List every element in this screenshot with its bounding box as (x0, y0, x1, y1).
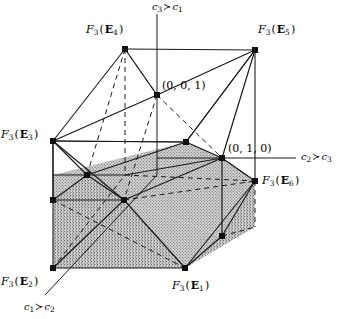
axis-label-c1-c2: c1≻c2 (24, 302, 55, 313)
vertex-label-f3-e2: F3(E2) (1, 276, 39, 288)
poly-edge-7 (186, 50, 255, 142)
geometry-figure (0, 0, 348, 319)
poly-edge-5 (53, 141, 87, 175)
marker-center (121, 197, 127, 203)
marker-front-right-low (219, 233, 225, 239)
vertex-label-f3-e6: F3(E6) (262, 175, 300, 187)
marker-f3-e4 (122, 46, 128, 52)
marker-f3-e3 (50, 138, 56, 144)
marker-mid-back (84, 172, 90, 178)
poly-edge-4 (53, 141, 186, 142)
marker-point-001 (154, 92, 160, 98)
marker-top-front-right (183, 139, 189, 145)
point-label-001: (0, 0, 1) (162, 80, 206, 91)
marker-f3-e6 (252, 178, 258, 184)
marker-f3-e1 (182, 265, 188, 271)
vertex-label-f3-e3: F3(E3) (1, 129, 39, 141)
relation-symbol: ≻ (162, 1, 172, 12)
vertex-label-f3-e4: F3(E4) (86, 24, 124, 36)
cube-edge-top-left (53, 49, 125, 141)
marker-point-010 (219, 155, 225, 161)
marker-f3-e2 (50, 265, 56, 271)
point-label-010: (0, 1, 0) (228, 143, 272, 154)
marker-left-mid (50, 197, 56, 203)
cube-edge-top-back (125, 49, 255, 50)
vertex-label-f3-e5: F3(E5) (258, 24, 296, 36)
vertex-label-f3-e1: F3(E1) (172, 280, 210, 292)
axis-label-c2-c3: c2≻c3 (301, 152, 332, 163)
poly-edge-3 (53, 95, 157, 141)
marker-f3-e5 (252, 47, 258, 53)
axis-label-c3-c1: c3≻c1 (152, 2, 183, 13)
